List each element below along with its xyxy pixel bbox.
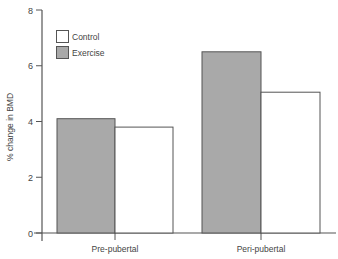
y-tick-label: 4	[28, 117, 33, 127]
y-tick-label: 6	[28, 61, 33, 71]
x-tick-label-peri-pubertal: Peri-pubertal	[237, 244, 286, 254]
y-axis-label: % change in BMD	[5, 93, 15, 161]
legend-swatch-control	[57, 31, 69, 43]
legend-swatch-exercise	[57, 47, 69, 59]
bar-exercise-pre-pubertal	[57, 119, 115, 233]
bar-control-pre-pubertal	[115, 127, 173, 233]
y-tick-label: 8	[28, 6, 33, 16]
y-ticks: 0 2 4 6 8	[28, 6, 42, 239]
x-tick-label-pre-pubertal: Pre-pubertal	[92, 244, 139, 254]
bars	[57, 52, 320, 233]
legend: Control Exercise	[57, 31, 105, 59]
legend-label-exercise: Exercise	[72, 48, 105, 58]
legend-label-control: Control	[72, 32, 100, 42]
x-ticks: Pre-pubertal Peri-pubertal	[92, 233, 286, 254]
bar-exercise-peri-pubertal	[202, 52, 261, 233]
bar-control-peri-pubertal	[261, 92, 320, 233]
y-tick-label: 0	[28, 229, 33, 239]
y-tick-label: 2	[28, 173, 33, 183]
bar-chart: 0 2 4 6 8 % change in BMD Pre-pubertal P…	[0, 0, 338, 259]
